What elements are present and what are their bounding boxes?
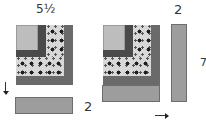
print-log-bottom — [16, 57, 64, 76]
strip-width-label-left: 2 — [84, 100, 92, 113]
quilt-block-left — [15, 24, 73, 85]
center-square — [16, 25, 38, 51]
border-log-right — [64, 25, 73, 85]
strip-width-label-right: 2 — [174, 3, 182, 16]
border-log-bottom — [103, 76, 151, 85]
width-label-left: 5½ — [36, 3, 55, 15]
border-log-right — [151, 25, 160, 85]
added-strip-bottom — [15, 97, 73, 114]
added-strip-right — [171, 24, 187, 102]
right-arrow-icon — [165, 113, 169, 119]
print-log-bottom — [103, 57, 151, 76]
strip-length-label-right: 7 — [200, 57, 206, 68]
quilt-block-right — [102, 24, 160, 102]
attached-strip-bottom — [102, 85, 160, 102]
border-log-bottom — [16, 76, 64, 85]
center-square — [103, 25, 125, 51]
dark-log-right — [125, 25, 133, 57]
dark-log-right — [38, 25, 46, 57]
down-arrow-icon — [3, 91, 9, 95]
